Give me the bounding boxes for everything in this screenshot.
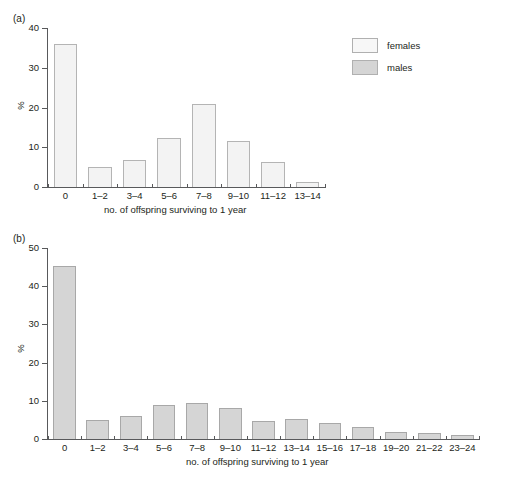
- x-tick: [256, 184, 257, 188]
- y-tick-10: 10: [42, 147, 47, 148]
- y-tick-50: 50: [42, 248, 47, 249]
- bar-slot: [247, 248, 280, 439]
- legend-swatch-males-icon: [352, 60, 378, 75]
- y-tick-40: 40: [42, 28, 47, 29]
- x-tick: [187, 184, 188, 188]
- x-tick-label: 23–24: [446, 442, 479, 454]
- y-tick-10: 10: [42, 401, 47, 402]
- panel-b-x-tick-labels: 01–23–45–67–89–1011–1213–1415–1617–1819–…: [48, 442, 479, 454]
- legend-label-males: males: [387, 62, 412, 74]
- x-tick: [325, 184, 326, 188]
- bar: [123, 160, 147, 187]
- y-tick-40: 40: [42, 286, 47, 287]
- bar: [319, 423, 342, 439]
- panel-b-y-axis-title: %: [15, 344, 26, 352]
- x-tick-label: 13–14: [280, 442, 313, 454]
- y-tick-label-0: 0: [34, 432, 39, 445]
- bar-slot: [413, 248, 446, 439]
- x-tick: [181, 436, 182, 440]
- y-tick-label-40: 40: [28, 279, 39, 292]
- x-tick-label: 5–6: [152, 190, 187, 202]
- y-tick-30: 30: [42, 68, 47, 69]
- x-tick-label: 0: [48, 442, 81, 454]
- x-tick-label: 0: [48, 190, 83, 202]
- bar: [385, 432, 408, 439]
- x-tick: [479, 436, 480, 440]
- panel-b-label: (b): [13, 234, 25, 244]
- x-tick: [83, 184, 84, 188]
- bar-slot: [280, 248, 313, 439]
- x-tick-label: 19–20: [380, 442, 413, 454]
- x-tick-label: 1–2: [81, 442, 114, 454]
- panel-b-x-axis-title: no. of offspring surviving to 1 year: [186, 456, 328, 468]
- bar-slot: [181, 248, 214, 439]
- y-tick-20: 20: [42, 108, 47, 109]
- panel-a-y-axis-title: %: [15, 101, 26, 109]
- y-tick-20: 20: [42, 363, 47, 364]
- x-tick: [380, 436, 381, 440]
- x-tick: [117, 184, 118, 188]
- bar: [219, 408, 242, 439]
- legend: females males: [352, 38, 420, 82]
- x-tick: [214, 436, 215, 440]
- y-tick-0: 0: [42, 187, 47, 188]
- figure-root: (a) % 010203040 01–23–45–67–89–1011–1213…: [0, 0, 508, 480]
- x-tick-label: 15–16: [313, 442, 346, 454]
- x-tick: [81, 436, 82, 440]
- x-tick-label: 7–8: [181, 442, 214, 454]
- x-tick-label: 21–22: [413, 442, 446, 454]
- x-tick: [446, 436, 447, 440]
- bar-slot: [187, 28, 222, 187]
- bar: [285, 419, 308, 439]
- panel-a-plot-area: 010203040: [47, 28, 325, 188]
- x-tick-label: 17–18: [346, 442, 379, 454]
- bar: [352, 427, 375, 439]
- bar: [261, 162, 285, 187]
- bar-slot: [83, 28, 118, 187]
- bar: [418, 433, 441, 439]
- x-tick-label: 3–4: [114, 442, 147, 454]
- panel-a-label: (a): [13, 14, 25, 24]
- x-tick-label: 1–2: [83, 190, 118, 202]
- bar: [227, 141, 251, 187]
- panel-b-x-axis-line: [47, 439, 479, 440]
- legend-item-males: males: [352, 60, 420, 75]
- panel-a: (a) % 010203040 01–23–45–67–89–1011–1213…: [0, 0, 508, 222]
- x-tick-label: 13–14: [290, 190, 325, 202]
- x-tick-label: 11–12: [247, 442, 280, 454]
- bar: [86, 420, 109, 439]
- bar: [53, 266, 76, 439]
- y-tick-30: 30: [42, 324, 47, 325]
- bar-slot: [221, 28, 256, 187]
- bar-slot: [114, 248, 147, 439]
- bar: [153, 405, 176, 439]
- panel-a-x-tick-labels: 01–23–45–67–89–1011–1213–14: [48, 190, 325, 202]
- x-tick: [290, 184, 291, 188]
- bar: [192, 104, 216, 187]
- bar: [186, 403, 209, 439]
- x-tick: [313, 436, 314, 440]
- bar: [252, 421, 275, 439]
- bar-slot: [48, 248, 81, 439]
- bar-slot: [152, 28, 187, 187]
- x-tick: [48, 184, 49, 188]
- bar-slot: [81, 248, 114, 439]
- bar-slot: [48, 28, 83, 187]
- y-tick-label-10: 10: [28, 394, 39, 407]
- bar: [54, 44, 78, 187]
- legend-swatch-females-icon: [352, 38, 378, 53]
- y-tick-label-20: 20: [28, 356, 39, 369]
- panel-a-bars: [48, 28, 325, 187]
- y-tick-label-40: 40: [28, 21, 39, 34]
- bar: [120, 416, 143, 439]
- bar-slot: [446, 248, 479, 439]
- x-tick: [346, 436, 347, 440]
- x-tick: [114, 436, 115, 440]
- bar: [296, 182, 320, 187]
- bar: [451, 435, 474, 439]
- x-tick: [247, 436, 248, 440]
- x-tick-label: 11–12: [256, 190, 291, 202]
- y-tick-label-0: 0: [34, 180, 39, 193]
- panel-b: (b) % 01020304050 01–23–45–67–89–1011–12…: [0, 228, 508, 480]
- x-tick-label: 9–10: [214, 442, 247, 454]
